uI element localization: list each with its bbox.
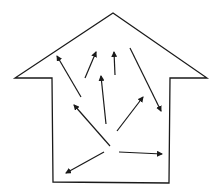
arrow-5 (101, 76, 106, 124)
house-outline (15, 13, 207, 183)
house-arrows-diagram (0, 0, 221, 193)
arrow-2 (85, 52, 96, 78)
arrow-6 (117, 97, 143, 131)
arrow-9 (66, 152, 104, 173)
arrows-group (57, 48, 162, 173)
arrow-8 (119, 152, 162, 154)
arrow-1 (57, 56, 81, 97)
arrow-3 (114, 52, 115, 75)
diagram-canvas (0, 0, 221, 193)
arrow-4 (130, 48, 161, 111)
